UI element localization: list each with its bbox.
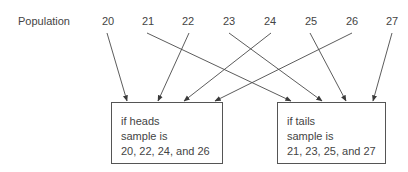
heads-sample-values: 20, 22, 24, and 26 xyxy=(121,144,210,159)
heads-condition: if heads xyxy=(121,114,210,129)
heads-box-text: if heads sample is 20, 22, 24, and 26 xyxy=(121,114,210,159)
arrow-24-to-heads xyxy=(184,33,271,101)
tails-sample-box: if tails sample is 21, 23, 25, and 27 xyxy=(277,102,386,164)
arrow-27-to-tails xyxy=(373,33,392,101)
arrow-26-to-heads xyxy=(215,33,352,101)
arrow-23-to-tails xyxy=(229,33,322,101)
heads-sample-box: if heads sample is 20, 22, 24, and 26 xyxy=(111,102,223,164)
tails-box-text: if tails sample is 21, 23, 25, and 27 xyxy=(287,114,376,159)
arrow-21-to-tails xyxy=(147,33,291,101)
heads-sample-label: sample is xyxy=(121,129,210,144)
arrow-20-to-heads xyxy=(107,33,127,101)
tails-sample-label: sample is xyxy=(287,129,376,144)
tails-condition: if tails xyxy=(287,114,376,129)
arrow-22-to-heads xyxy=(158,33,189,101)
arrow-25-to-tails xyxy=(310,33,346,101)
tails-sample-values: 21, 23, 25, and 27 xyxy=(287,144,376,159)
